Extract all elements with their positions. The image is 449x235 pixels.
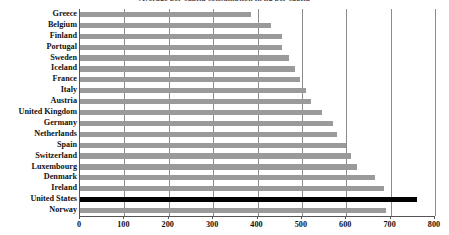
y-axis-labels: GreeceBelgiumFinlandPortugalSwedenIcelan… (0, 9, 77, 216)
bar-luxembourg (80, 164, 357, 169)
x-axis-tick-labels: 0100200300400500600700800 (0, 220, 449, 232)
plot-area (79, 9, 434, 216)
bar-sweden (80, 55, 289, 60)
tick-mark (168, 216, 169, 219)
tick-mark (257, 216, 258, 219)
y-axis-label: Switzerland (35, 151, 77, 162)
tick-mark (345, 216, 346, 219)
y-axis-label: Netherlands (34, 129, 77, 140)
y-axis-label: Ireland (51, 183, 77, 194)
tick-mark (79, 216, 80, 219)
x-axis-label: 300 (206, 220, 218, 229)
chart-title: Average per-capita consumption in kg per… (0, 0, 449, 1)
y-axis-label: Portugal (47, 42, 77, 53)
bar-greece (80, 12, 251, 17)
x-axis-label: 0 (77, 220, 81, 229)
y-axis-label: Austria (51, 96, 77, 107)
tick-mark (212, 216, 213, 219)
x-axis-label: 100 (117, 220, 129, 229)
gridline (346, 9, 347, 216)
bar-germany (80, 121, 333, 126)
bar-united-kingdom (80, 110, 322, 115)
gridline (391, 9, 392, 216)
y-axis-label: Sweden (50, 53, 77, 64)
x-axis-label: 800 (428, 220, 440, 229)
bar-portugal (80, 45, 282, 50)
bar-france (80, 77, 300, 82)
bar-norway (80, 208, 386, 213)
tick-mark (390, 216, 391, 219)
bar-netherlands (80, 132, 337, 137)
bar-united-states (80, 197, 417, 203)
x-axis-label: 500 (295, 220, 307, 229)
y-axis-label: Norway (49, 205, 77, 216)
bar-finland (80, 34, 282, 39)
y-axis-label: Iceland (51, 63, 77, 74)
bar-ireland (80, 186, 384, 191)
x-axis-label: 400 (250, 220, 262, 229)
bar-spain (80, 143, 346, 148)
y-axis-label: France (52, 74, 77, 85)
y-axis-label: Greece (53, 9, 77, 20)
gridline (435, 9, 436, 216)
x-axis-label: 200 (162, 220, 174, 229)
y-axis-label: United Kingdom (19, 107, 77, 118)
y-axis-label: Belgium (48, 20, 77, 31)
bar-denmark (80, 175, 375, 180)
y-axis-label: Denmark (44, 172, 77, 183)
bar-italy (80, 88, 306, 93)
tick-mark (434, 216, 435, 219)
tick-mark (301, 216, 302, 219)
x-axis-label: 600 (339, 220, 351, 229)
y-axis-label: United States (30, 194, 77, 205)
y-axis-label: Spain (57, 140, 77, 151)
bar-chart: Average per-capita consumption in kg per… (0, 0, 449, 235)
bar-iceland (80, 66, 295, 71)
tick-mark (123, 216, 124, 219)
x-axis-label: 700 (383, 220, 395, 229)
y-axis-label: Finland (50, 31, 77, 42)
y-axis-label: Italy (61, 85, 77, 96)
y-axis-label: Luxembourg (32, 162, 78, 173)
bar-austria (80, 99, 311, 104)
bar-belgium (80, 23, 271, 28)
y-axis-label: Germany (44, 118, 77, 129)
bar-switzerland (80, 153, 351, 158)
